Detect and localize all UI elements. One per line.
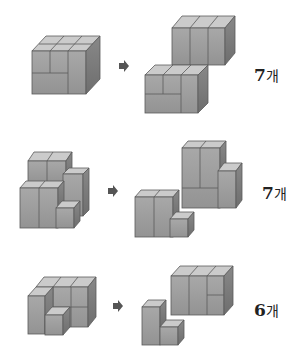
answer-unit: 개 — [266, 303, 279, 319]
arrow-right-icon — [113, 300, 123, 312]
problem-1-piece-b — [145, 65, 208, 113]
answer-unit: 개 — [274, 186, 287, 202]
answer-number: 7 — [254, 65, 266, 85]
problem-3-piece-a — [171, 266, 233, 315]
answer-number: 6 — [254, 300, 266, 320]
problem-2-original-shape — [20, 152, 89, 228]
answer-label-3: 6개 — [254, 300, 279, 320]
arrow-right-icon — [108, 185, 118, 197]
block-figures — [0, 0, 295, 361]
answer-label-2: 7개 — [262, 183, 287, 203]
arrow-right-icon — [119, 60, 129, 72]
answer-number: 7 — [262, 183, 274, 203]
answer-label-1: 7개 — [254, 65, 279, 85]
problem-3-original-shape — [28, 277, 96, 335]
problem-1-original-shape — [32, 36, 100, 94]
answer-unit: 개 — [266, 68, 279, 84]
problem-2-piece-a — [182, 141, 242, 208]
problem-1-piece-a — [172, 16, 235, 65]
